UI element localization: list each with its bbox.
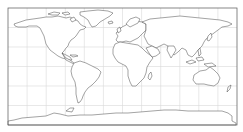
north-america — [14, 16, 86, 60]
world-map — [0, 0, 243, 132]
south-america — [71, 61, 101, 103]
landmasses — [8, 10, 236, 125]
greenland — [80, 10, 113, 27]
australia — [193, 67, 220, 86]
antarctica — [8, 110, 236, 125]
